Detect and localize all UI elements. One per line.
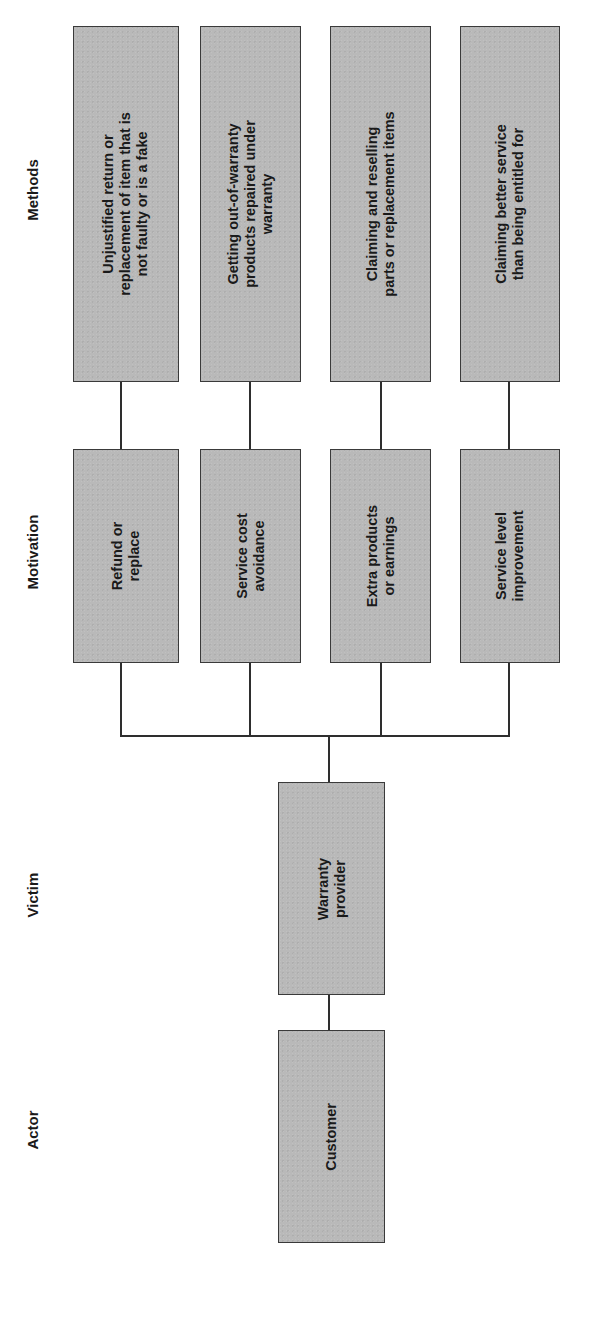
method-box-2: Getting out-of-warranty products repaire… xyxy=(200,26,301,382)
motivation-box-3: Extra products or earnings xyxy=(330,449,431,663)
actor-text: Customer xyxy=(323,1037,340,1237)
motivation-text-1: Refund or replace xyxy=(109,456,143,656)
motivation-text-2: Service cost avoidance xyxy=(233,456,267,656)
method-box-1: Unjustified return or replacement of ite… xyxy=(73,26,179,382)
method-box-3: Claiming and reselling parts or replacem… xyxy=(330,26,431,382)
actor-box: Customer xyxy=(278,1030,385,1243)
motivation-box-2: Service cost avoidance xyxy=(200,449,301,663)
method-box-4: Claiming better service than being entit… xyxy=(460,26,560,382)
motivation-text-3: Extra products or earnings xyxy=(363,456,397,656)
column-label-victim-text: Victim xyxy=(24,873,41,918)
connector-motive-bus-1 xyxy=(120,663,122,736)
method-text-2: Getting out-of-warranty products repaire… xyxy=(225,54,276,354)
connector-method-motive-4 xyxy=(508,382,510,449)
column-label-actor-text: Actor xyxy=(24,1110,41,1149)
connector-motive-bus-3 xyxy=(380,663,382,736)
connector-victim-actor xyxy=(328,995,330,1030)
connector-method-motive-1 xyxy=(120,382,122,449)
connector-method-motive-3 xyxy=(380,382,382,449)
connector-method-motive-2 xyxy=(249,382,251,449)
connector-motive-bus-4 xyxy=(508,663,510,736)
column-label-motivation-text: Motivation xyxy=(24,515,41,590)
method-text-3: Claiming and reselling parts or replacem… xyxy=(363,54,397,354)
connector-bus xyxy=(120,735,510,737)
method-text-1: Unjustified return or replacement of ite… xyxy=(100,54,151,354)
warranty-fraud-diagram: Methods Motivation Victim Actor Unjustif… xyxy=(0,0,616,1329)
connector-bus-victim xyxy=(328,735,330,782)
victim-text: Warranty provider xyxy=(314,789,348,989)
motivation-box-1: Refund or replace xyxy=(73,449,179,663)
motivation-text-4: Service level improvement xyxy=(493,456,527,656)
column-label-methods-text: Methods xyxy=(24,159,41,221)
connector-motive-bus-2 xyxy=(249,663,251,736)
method-text-4: Claiming better service than being entit… xyxy=(493,54,527,354)
motivation-box-4: Service level improvement xyxy=(460,449,560,663)
victim-box: Warranty provider xyxy=(278,782,385,995)
